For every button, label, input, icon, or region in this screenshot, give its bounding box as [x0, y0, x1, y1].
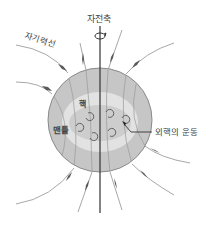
rotation-axis-label: 자전축 [87, 14, 111, 24]
earth-magnetic-field-diagram: 자전축 자기력선 핵 맨틀 외핵의 운동 [0, 0, 214, 230]
field-arrow-icon [132, 60, 140, 68]
core-label: 핵 [79, 99, 86, 109]
field-line [108, 30, 122, 70]
outer-core-motion-label: 외핵의 운동 [155, 127, 198, 137]
field-arrow-icon [85, 180, 89, 191]
field-lines-label: 자기력선 [23, 30, 57, 49]
field-arrow-icon [140, 170, 148, 178]
field-line [145, 146, 190, 163]
field-line [110, 172, 122, 210]
field-line [78, 172, 92, 212]
field-arrow-icon [58, 64, 67, 71]
mantle-label: 맨틀 [53, 125, 69, 135]
field-line [16, 45, 68, 73]
field-line [132, 164, 174, 195]
field-arrow-icon [110, 52, 114, 63]
field-line [126, 43, 174, 74]
field-line [16, 168, 74, 204]
